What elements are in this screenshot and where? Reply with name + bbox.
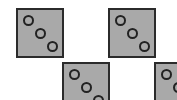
pip-circle-icon [23,15,34,26]
pip-circle-icon [35,28,46,39]
pip-circle-icon [81,82,92,93]
pip-circle-icon [173,82,177,93]
pip-circle-icon [139,41,150,52]
pip-circle-icon [93,95,104,100]
pip-circle-icon [69,69,80,80]
pip-circle-icon [127,28,138,39]
die-tile-1 [16,8,64,58]
die-tile-3 [62,62,110,100]
pip-circle-icon [161,69,172,80]
pip-circle-icon [47,41,58,52]
die-tile-2 [108,8,156,58]
pip-circle-icon [115,15,126,26]
die-tile-4 [154,62,177,100]
